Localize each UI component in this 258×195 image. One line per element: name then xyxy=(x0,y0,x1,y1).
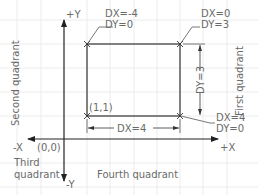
coordinate-diagram: +Y -Y +X -X (0,0) Second quadrant First … xyxy=(0,0,258,195)
top-left-dx: DX=-4 xyxy=(105,8,138,19)
height-dimension-label: DY=3 xyxy=(195,66,206,94)
third-quadrant-label-line1: Third xyxy=(13,157,40,168)
fourth-quadrant-label: Fourth quadrant xyxy=(97,169,178,180)
width-dimension-label: DX=4 xyxy=(117,123,146,134)
top-right-dy: DY=3 xyxy=(201,19,229,30)
neg-y-label: -Y xyxy=(66,179,75,190)
bottom-right-dy: DY=0 xyxy=(216,123,244,134)
top-left-dy: DY=0 xyxy=(105,19,133,30)
bottom-right-dx: DX=4 xyxy=(216,112,245,123)
bottom-right-leader xyxy=(181,116,215,123)
pos-y-label: +Y xyxy=(66,9,81,20)
top-right-leader xyxy=(181,27,200,43)
start-point-label: (1,1) xyxy=(89,102,113,113)
origin-label: (0,0) xyxy=(37,142,61,153)
first-quadrant-label: First quadrant xyxy=(234,46,245,116)
top-right-dx: DX=0 xyxy=(201,8,230,19)
third-quadrant-label-line2: quadrant xyxy=(14,169,60,180)
neg-x-label: -X xyxy=(13,142,23,153)
second-quadrant-label: Second quadrant xyxy=(10,40,21,126)
pos-x-label: +X xyxy=(220,142,235,153)
